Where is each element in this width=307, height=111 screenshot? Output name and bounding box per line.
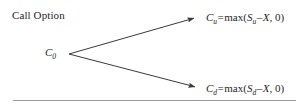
down-branch-arrow [69, 54, 195, 87]
up-branch-payoff-formula: Cu=max(Su–X, 0) [206, 11, 284, 25]
up-branch-arrow [69, 18, 194, 54]
down-payoff-lhs-subscript: d [213, 88, 217, 97]
up-payoff-close-paren: ) [280, 11, 284, 23]
up-payoff-lhs-subscript: u [213, 17, 217, 26]
down-payoff-comma: , [269, 82, 272, 94]
down-payoff-arg-subscript: d [252, 88, 256, 97]
call-option-binomial-tree-figure: Call Option C0 Cu=max(Su–X, 0) Cd=max(Sd… [0, 0, 307, 111]
up-payoff-arg-subscript: u [252, 17, 256, 26]
up-payoff-comma: , [269, 11, 272, 23]
up-payoff-function: max [224, 11, 243, 23]
bottom-rule [13, 100, 296, 101]
down-payoff-close-paren: ) [280, 82, 284, 94]
down-branch-payoff-formula: Cd=max(Sd–X, 0) [206, 82, 284, 96]
down-payoff-function: max [224, 82, 243, 94]
